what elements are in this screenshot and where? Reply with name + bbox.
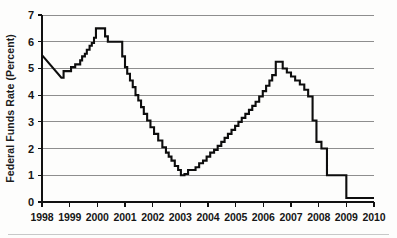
y-tick-label-3: 3 [28,116,34,128]
x-tick-label-2008: 2008 [307,211,330,223]
series-line-federal-funds-rate [42,28,374,198]
y-axis: 01234567 [28,9,42,208]
x-tick-label-2001: 2001 [114,211,137,223]
x-tick-label-2006: 2006 [252,211,275,223]
federal-funds-rate-chart: 01234567 1998199920002001200220032004200… [0,0,397,238]
y-tick-label-7: 7 [28,9,34,21]
x-tick-label-2007: 2007 [280,211,303,223]
x-tick-label-1999: 1999 [58,211,81,223]
x-tick-labels: 1998199920002001200220032004200520062007… [31,211,386,223]
y-axis-title: Federal Funds Rate (Percent) [4,34,16,183]
y-tick-label-5: 5 [28,62,34,74]
y-tick-label-2: 2 [28,143,34,155]
x-tick-label-2002: 2002 [141,211,164,223]
y-tick-label-1: 1 [28,169,34,181]
y-tick-labels: 01234567 [28,9,35,208]
data-series-group [42,28,374,198]
x-tick-label-1998: 1998 [31,211,54,223]
x-tick-marks [42,202,374,207]
y-tick-label-6: 6 [28,36,34,48]
x-tick-label-2003: 2003 [169,211,192,223]
x-axis: 1998199920002001200220032004200520062007… [31,202,386,223]
y-tick-label-4: 4 [28,89,35,101]
x-tick-label-2009: 2009 [335,211,358,223]
x-tick-label-2005: 2005 [224,211,247,223]
gridlines [42,15,374,175]
x-tick-label-2004: 2004 [197,211,220,223]
y-tick-label-0: 0 [28,196,34,208]
x-tick-label-2000: 2000 [86,211,109,223]
x-tick-label-2010: 2010 [363,211,386,223]
chart-page: 01234567 1998199920002001200220032004200… [0,0,397,238]
